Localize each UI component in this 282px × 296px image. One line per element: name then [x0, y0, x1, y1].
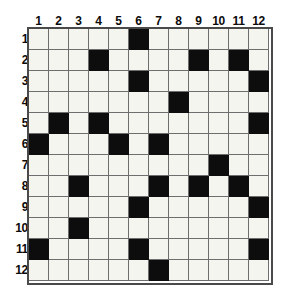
grid-cell-r10c9[interactable] [189, 218, 209, 239]
grid-cell-r6c9[interactable] [189, 134, 209, 155]
grid-cell-r9c1[interactable] [29, 197, 49, 218]
grid-cell-r5c3[interactable] [69, 113, 89, 134]
grid-cell-r8c11[interactable] [229, 176, 249, 197]
grid-cell-r4c8[interactable] [169, 92, 189, 113]
grid-cell-r5c5[interactable] [109, 113, 129, 134]
grid-cell-r5c7[interactable] [149, 113, 169, 134]
grid-cell-r7c12[interactable] [249, 155, 269, 176]
grid-cell-r7c3[interactable] [69, 155, 89, 176]
grid-cell-r4c12[interactable] [249, 92, 269, 113]
grid-cell-r3c3[interactable] [69, 71, 89, 92]
grid-cell-r6c4[interactable] [89, 134, 109, 155]
grid-cell-r7c7[interactable] [149, 155, 169, 176]
grid-cell-r1c11[interactable] [229, 29, 249, 50]
grid-cell-r10c12[interactable] [249, 218, 269, 239]
grid-cell-r12c7[interactable] [149, 260, 169, 281]
grid-cell-r2c10[interactable] [209, 50, 229, 71]
grid-cell-r9c8[interactable] [169, 197, 189, 218]
grid-cell-r1c1[interactable] [29, 29, 49, 50]
grid-cell-r6c5[interactable] [109, 134, 129, 155]
grid-cell-r9c7[interactable] [149, 197, 169, 218]
grid-cell-r7c5[interactable] [109, 155, 129, 176]
grid-cell-r8c5[interactable] [109, 176, 129, 197]
grid-cell-r4c10[interactable] [209, 92, 229, 113]
grid-cell-r11c6[interactable] [129, 239, 149, 260]
grid-cell-r11c12[interactable] [249, 239, 269, 260]
grid-cell-r9c10[interactable] [209, 197, 229, 218]
grid-cell-r6c10[interactable] [209, 134, 229, 155]
grid-cell-r12c9[interactable] [189, 260, 209, 281]
grid-cell-r12c2[interactable] [49, 260, 69, 281]
grid-cell-r12c1[interactable] [29, 260, 49, 281]
grid-cell-r12c10[interactable] [209, 260, 229, 281]
grid-cell-r4c2[interactable] [49, 92, 69, 113]
grid-cell-r2c3[interactable] [69, 50, 89, 71]
grid-cell-r7c10[interactable] [209, 155, 229, 176]
grid-cell-r3c8[interactable] [169, 71, 189, 92]
grid-cell-r10c11[interactable] [229, 218, 249, 239]
grid-cell-r3c12[interactable] [249, 71, 269, 92]
grid-cell-r11c7[interactable] [149, 239, 169, 260]
grid-cell-r6c3[interactable] [69, 134, 89, 155]
grid-cell-r2c6[interactable] [129, 50, 149, 71]
grid-cell-r3c9[interactable] [189, 71, 209, 92]
grid-cell-r5c4[interactable] [89, 113, 109, 134]
grid-cell-r8c10[interactable] [209, 176, 229, 197]
grid-cell-r4c7[interactable] [149, 92, 169, 113]
grid-cell-r4c11[interactable] [229, 92, 249, 113]
grid-cell-r11c5[interactable] [109, 239, 129, 260]
grid-cell-r2c4[interactable] [89, 50, 109, 71]
grid-cell-r6c11[interactable] [229, 134, 249, 155]
grid-cell-r12c8[interactable] [169, 260, 189, 281]
grid-cell-r5c11[interactable] [229, 113, 249, 134]
grid-cell-r10c4[interactable] [89, 218, 109, 239]
grid-cell-r6c6[interactable] [129, 134, 149, 155]
grid-cell-r10c5[interactable] [109, 218, 129, 239]
grid-cell-r3c6[interactable] [129, 71, 149, 92]
grid-cell-r8c8[interactable] [169, 176, 189, 197]
grid-cell-r11c4[interactable] [89, 239, 109, 260]
grid-cell-r3c1[interactable] [29, 71, 49, 92]
grid-cell-r12c12[interactable] [249, 260, 269, 281]
grid-cell-r3c10[interactable] [209, 71, 229, 92]
grid-cell-r4c9[interactable] [189, 92, 209, 113]
grid-cell-r7c4[interactable] [89, 155, 109, 176]
grid-cell-r1c8[interactable] [169, 29, 189, 50]
grid-cell-r11c2[interactable] [49, 239, 69, 260]
grid-cell-r11c9[interactable] [189, 239, 209, 260]
grid-cell-r1c2[interactable] [49, 29, 69, 50]
grid-cell-r1c12[interactable] [249, 29, 269, 50]
grid-cell-r9c11[interactable] [229, 197, 249, 218]
grid-cell-r1c4[interactable] [89, 29, 109, 50]
grid-cell-r10c7[interactable] [149, 218, 169, 239]
grid-cell-r5c2[interactable] [49, 113, 69, 134]
grid-cell-r6c1[interactable] [29, 134, 49, 155]
grid-cell-r11c11[interactable] [229, 239, 249, 260]
grid-cell-r7c8[interactable] [169, 155, 189, 176]
grid-cell-r12c6[interactable] [129, 260, 149, 281]
grid-cell-r12c5[interactable] [109, 260, 129, 281]
grid-cell-r8c1[interactable] [29, 176, 49, 197]
grid-cell-r8c4[interactable] [89, 176, 109, 197]
grid-cell-r3c5[interactable] [109, 71, 129, 92]
grid-cell-r7c1[interactable] [29, 155, 49, 176]
grid-cell-r10c10[interactable] [209, 218, 229, 239]
grid-cell-r10c3[interactable] [69, 218, 89, 239]
grid-cell-r8c2[interactable] [49, 176, 69, 197]
grid-cell-r1c10[interactable] [209, 29, 229, 50]
grid-cell-r8c12[interactable] [249, 176, 269, 197]
grid-cell-r5c6[interactable] [129, 113, 149, 134]
grid-cell-r5c10[interactable] [209, 113, 229, 134]
grid-cell-r12c11[interactable] [229, 260, 249, 281]
grid-cell-r1c5[interactable] [109, 29, 129, 50]
grid-cell-r2c8[interactable] [169, 50, 189, 71]
grid-cell-r9c2[interactable] [49, 197, 69, 218]
grid-cell-r11c3[interactable] [69, 239, 89, 260]
grid-cell-r10c2[interactable] [49, 218, 69, 239]
grid-cell-r9c3[interactable] [69, 197, 89, 218]
grid-cell-r5c1[interactable] [29, 113, 49, 134]
grid-cell-r11c8[interactable] [169, 239, 189, 260]
grid-cell-r9c4[interactable] [89, 197, 109, 218]
grid-cell-r6c2[interactable] [49, 134, 69, 155]
grid-cell-r4c6[interactable] [129, 92, 149, 113]
